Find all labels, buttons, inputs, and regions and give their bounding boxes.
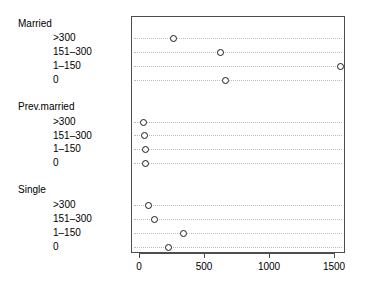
data-point-single-0 (165, 244, 172, 251)
x-tick-label-1000: 1000 (258, 261, 280, 272)
level-label-single-0: 0 (53, 241, 59, 252)
group-label-single: Single (18, 184, 46, 195)
level-label-prev-married-0: 0 (53, 157, 59, 168)
x-tick-label-500: 500 (196, 261, 213, 272)
data-point-married-0 (222, 77, 229, 84)
plot-panel (131, 16, 345, 253)
data-point-prev-married-300 (140, 119, 147, 126)
group-label-prev-married: Prev.married (18, 101, 75, 112)
data-point-prev-married-1-150 (142, 146, 149, 153)
x-tick-mark-1500 (334, 253, 335, 258)
group-label-married: Married (18, 18, 52, 29)
level-label-single-1-150: 1–150 (53, 227, 81, 238)
x-tick-mark-1000 (269, 253, 270, 258)
level-label-married-0: 0 (53, 74, 59, 85)
level-label-married-over-300: >300 (53, 32, 76, 43)
data-point-prev-married-0 (142, 160, 149, 167)
x-axis: 0 500 1000 1500 (131, 253, 345, 302)
data-points-layer (132, 17, 344, 252)
data-point-married-1-150 (337, 63, 344, 70)
level-label-single-over-300: >300 (53, 199, 76, 210)
level-label-prev-married-151-300: 151–300 (53, 130, 92, 141)
level-label-married-1-150: 1–150 (53, 60, 81, 71)
category-label-column: Married >300 151–300 1–150 0 Prev.marrie… (0, 0, 131, 302)
data-point-single-151-300 (151, 216, 158, 223)
level-label-married-151-300: 151–300 (53, 46, 92, 57)
x-tick-label-1500: 1500 (323, 261, 345, 272)
data-point-married-300 (170, 35, 177, 42)
data-point-single-1-150 (180, 230, 187, 237)
data-point-prev-married-151-300 (141, 132, 148, 139)
x-tick-mark-0 (139, 253, 140, 258)
data-point-single-300 (145, 202, 152, 209)
dotchart-figure: Married >300 151–300 1–150 0 Prev.marrie… (0, 0, 370, 302)
level-label-single-151-300: 151–300 (53, 213, 92, 224)
x-axis-line (139, 253, 335, 254)
x-tick-mark-500 (204, 253, 205, 258)
x-tick-label-0: 0 (136, 261, 142, 272)
data-point-married-151-300 (217, 49, 224, 56)
level-label-prev-married-1-150: 1–150 (53, 143, 81, 154)
level-label-prev-married-over-300: >300 (53, 116, 76, 127)
